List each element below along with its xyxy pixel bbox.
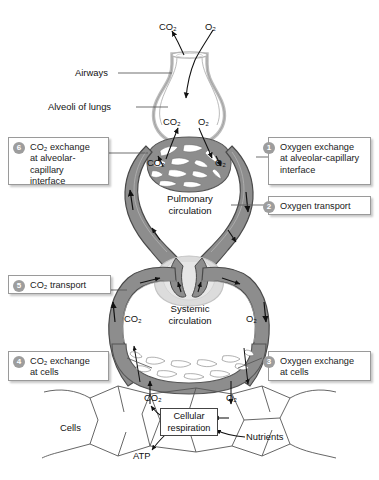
callout-badge-2: 2 [263,201,275,213]
gas-label-o2-cell: O₂ [226,392,237,403]
gas-label-o2-alveolus: O₂ [198,116,209,127]
callout-2-oxygen-transport[interactable]: 2 Oxygen transport [268,196,371,215]
label-systemic-circulation: Systemic circulation [159,303,221,327]
callout-text-6: CO₂ exchange at alveolar-capillary inter… [30,142,103,188]
callout-6-co2-exchange-alveolar[interactable]: 6 CO₂ exchange at alveolar-capillary int… [8,137,109,185]
callout-badge-5: 5 [13,280,25,292]
gas-label-o2-pulmonary-capillary: O₂ [215,157,226,168]
callout-1-oxygen-exchange-alveolar[interactable]: 1 Oxygen exchange at alveolar-capillary … [268,137,371,185]
label-alveoli-of-lungs: Alveoli of lungs [48,101,111,112]
alveolus-group [154,52,225,145]
callout-badge-1: 1 [263,142,275,154]
label-pulmonary-circulation: Pulmonary circulation [159,193,221,217]
gas-label-co2-alveolus: CO₂ [163,116,181,127]
gas-label-o2-inhaled: O₂ [205,21,216,32]
gas-label-o2-systemic: O₂ [246,313,257,324]
callout-text-4: CO₂ exchange at cells [30,356,103,379]
label-nutrients: Nutrients [246,431,284,442]
callout-4-co2-exchange-cells[interactable]: 4 CO₂ exchange at cells [8,351,109,381]
callout-text-1: Oxygen exchange at alveolar-capillary in… [280,142,365,176]
callout-text-5: CO₂ transport [30,280,105,291]
respiratory-circulation-diagram: Airways Alveoli of lungs Pulmonary circu… [0,0,379,480]
systemic-capillary-bed [112,344,266,394]
gas-label-co2-cell: CO₂ [144,392,162,403]
gas-label-co2-systemic: CO₂ [124,313,142,324]
cellular-respiration-box: Cellular respiration [160,408,218,436]
callout-3-oxygen-exchange-cells[interactable]: 3 Oxygen exchange at cells [268,351,371,381]
callout-text-2: Oxygen transport [280,201,365,212]
label-airways: Airways [75,67,108,78]
gas-label-co2-exhaled: CO₂ [159,21,177,32]
callout-badge-6: 6 [13,142,25,154]
gas-label-co2-pulmonary-capillary: CO₂ [147,157,165,168]
callout-badge-3: 3 [263,356,275,368]
label-cells: Cells [60,422,81,433]
label-atp: ATP [133,450,151,461]
callout-text-3: Oxygen exchange at cells [280,356,365,379]
callout-5-co2-transport[interactable]: 5 CO₂ transport [8,275,111,294]
callout-badge-4: 4 [13,356,25,368]
